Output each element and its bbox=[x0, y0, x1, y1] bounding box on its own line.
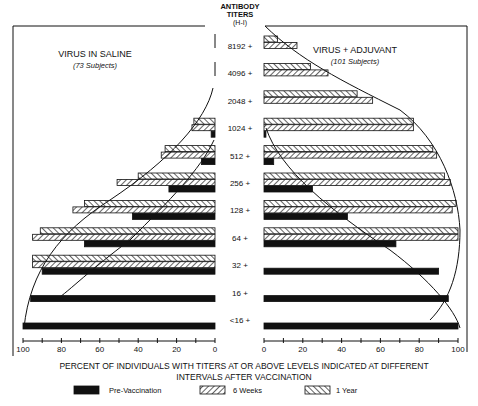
x-tick-label-left: 40 bbox=[134, 345, 143, 354]
bar-right-pre-vaccination bbox=[264, 213, 347, 219]
bar-left-1-year bbox=[138, 173, 215, 179]
bar-right-pre-vaccination bbox=[264, 241, 396, 247]
bar-right-6-weeks bbox=[264, 70, 328, 76]
x-tick-label-left: 80 bbox=[57, 345, 66, 354]
category-label: 8192 + bbox=[228, 42, 253, 51]
bar-left-6-weeks bbox=[33, 234, 215, 240]
bar-right-6-weeks bbox=[264, 43, 297, 49]
legend-label-pre: Pre-Vaccination bbox=[109, 386, 161, 395]
bar-right-1-year bbox=[264, 91, 357, 97]
category-label: 256 + bbox=[230, 179, 251, 188]
bar-right-6-weeks bbox=[264, 234, 458, 240]
bar-right-pre-vaccination bbox=[264, 296, 448, 302]
bar-right-6-weeks bbox=[264, 152, 437, 158]
category-label: 32 + bbox=[232, 261, 248, 270]
bar-right-6-weeks bbox=[264, 125, 413, 131]
x-axis-label-line2: INTERVALS AFTER VACCINATION bbox=[176, 372, 311, 382]
x-tick-label-right: 40 bbox=[337, 345, 346, 354]
category-label: 16 + bbox=[232, 289, 248, 298]
category-label: 2048 + bbox=[228, 97, 253, 106]
bar-left-pre-vaccination bbox=[211, 131, 215, 137]
bar-right-pre-vaccination bbox=[264, 131, 266, 137]
bar-right-1-year bbox=[264, 63, 311, 69]
x-tick-label-left: 20 bbox=[172, 345, 181, 354]
legend-swatch-pre bbox=[74, 386, 99, 394]
x-tick-label-right: 100 bbox=[451, 345, 465, 354]
antibody-titer-chart: 002020404060608080100100ANTIBODYTITERS(H… bbox=[0, 0, 478, 406]
bar-left-1-year bbox=[33, 255, 215, 261]
bar-right-1-year bbox=[264, 228, 458, 234]
bar-right-6-weeks bbox=[264, 180, 450, 186]
x-tick-label-left: 100 bbox=[16, 345, 30, 354]
bar-left-6-weeks bbox=[192, 125, 215, 131]
bar-left-pre-vaccination bbox=[84, 241, 215, 247]
bar-right-1-year bbox=[264, 200, 456, 206]
curve-left-inner bbox=[56, 140, 214, 300]
category-label: 1024 + bbox=[228, 124, 253, 133]
legend: Pre-Vaccination6 Weeks1 Year bbox=[74, 386, 358, 395]
x-tick-label-right: 0 bbox=[262, 345, 267, 354]
x-tick-label-left: 0 bbox=[213, 345, 218, 354]
bar-right-pre-vaccination bbox=[264, 186, 313, 192]
category-label: 64 + bbox=[232, 234, 248, 243]
legend-label-w6: 6 Weeks bbox=[233, 386, 262, 395]
legend-swatch-y1 bbox=[305, 386, 330, 394]
bar-left-6-weeks bbox=[73, 207, 215, 213]
panel-subtitle-right: (101 Subjects) bbox=[331, 57, 380, 66]
bar-left-pre-vaccination bbox=[42, 268, 215, 274]
bar-right-6-weeks bbox=[264, 207, 452, 213]
bar-left-pre-vaccination bbox=[202, 159, 215, 165]
bar-right-1-year bbox=[264, 118, 413, 124]
bar-left-1-year bbox=[40, 228, 215, 234]
panel-subtitle-left: (73 Subjects) bbox=[73, 61, 118, 70]
x-tick-label-right: 20 bbox=[298, 345, 307, 354]
bar-right-pre-vaccination bbox=[264, 268, 439, 274]
bar-left-pre-vaccination bbox=[132, 213, 215, 219]
bar-left-pre-vaccination bbox=[169, 186, 215, 192]
bar-left-6-weeks bbox=[33, 262, 215, 268]
category-label: 4096 + bbox=[228, 69, 253, 78]
panel-title-right: VIRUS + ADJUVANT bbox=[313, 45, 398, 55]
legend-swatch-w6 bbox=[200, 386, 225, 394]
legend-label-y1: 1 Year bbox=[336, 386, 358, 395]
category-label: 512 + bbox=[230, 152, 251, 161]
x-axis-label-line1: PERCENT OF INDIVIDUALS WITH TITERS AT OR… bbox=[59, 361, 428, 371]
bar-right-pre-vaccination bbox=[264, 323, 458, 329]
x-tick-label-right: 80 bbox=[415, 345, 424, 354]
bar-right-pre-vaccination bbox=[264, 159, 274, 165]
bar-right-6-weeks bbox=[264, 97, 373, 103]
bar-right-1-year bbox=[264, 36, 278, 42]
x-tick-label-left: 60 bbox=[95, 345, 104, 354]
x-tick-label-right: 60 bbox=[376, 345, 385, 354]
panel-title-left: VIRUS IN SALINE bbox=[58, 49, 132, 59]
center-axis-title: TITERS bbox=[227, 10, 254, 19]
category-label: <16 + bbox=[230, 316, 251, 325]
bar-left-pre-vaccination bbox=[23, 323, 215, 329]
category-label: 128 + bbox=[230, 206, 251, 215]
center-axis-title: (H-I) bbox=[233, 19, 247, 27]
bar-right-1-year bbox=[264, 146, 433, 152]
bar-right-1-year bbox=[264, 173, 444, 179]
